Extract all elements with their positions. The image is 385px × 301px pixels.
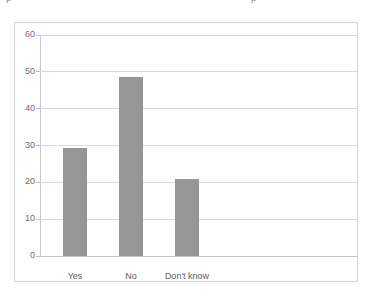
y-axis-tick-label: 10 <box>14 214 35 223</box>
bar-don-t-know <box>175 179 199 256</box>
y-tick-mark-50 <box>36 71 40 72</box>
bar-no <box>119 77 143 256</box>
gridline-30 <box>40 145 358 146</box>
y-axis-tick-label-text: 50 <box>25 67 35 76</box>
y-tick-mark-30 <box>36 145 40 146</box>
gridline-0 <box>40 256 358 257</box>
gridline-40 <box>40 108 358 109</box>
gridline-20 <box>40 182 358 183</box>
gridline-60 <box>40 35 358 36</box>
y-axis-tick-label-text: 60 <box>25 30 35 39</box>
y-axis-tick-label-text: 10 <box>25 214 35 223</box>
chart-frame: 0102030405060YesNoDon't know <box>14 22 358 282</box>
y-tick-mark-0 <box>36 256 40 257</box>
y-axis-tick-label-text: 0 <box>30 251 35 260</box>
y-axis-tick-label-text: 40 <box>25 104 35 113</box>
y-tick-mark-60 <box>36 35 40 36</box>
x-axis-category-label: Don't know <box>137 271 237 281</box>
y-axis-tick-label-text: 30 <box>25 141 35 150</box>
y-axis-tick-label: 0 <box>14 251 35 260</box>
y-tick-mark-40 <box>36 108 40 109</box>
y-axis-tick-label: 20 <box>14 177 35 186</box>
gridline-10 <box>40 219 358 220</box>
clipped-text-fragment-left: ρ <box>6 0 12 3</box>
gridline-50 <box>40 71 358 72</box>
chart-page: ρ ρ 0102030405060YesNoDon't know <box>0 0 385 301</box>
clipped-text-fragment-right: ρ <box>251 0 257 3</box>
y-tick-mark-10 <box>36 219 40 220</box>
clipped-caption-strip: ρ ρ <box>0 0 385 10</box>
y-tick-mark-20 <box>36 182 40 183</box>
y-axis-tick-label: 40 <box>14 104 35 113</box>
bar-yes <box>63 148 87 256</box>
y-axis-tick-label: 50 <box>14 67 35 76</box>
plot-area: 0102030405060YesNoDon't know <box>40 35 358 256</box>
y-axis-tick-label: 30 <box>14 141 35 150</box>
y-axis-tick-label-text: 20 <box>25 177 35 186</box>
y-axis-tick-label: 60 <box>14 30 35 39</box>
